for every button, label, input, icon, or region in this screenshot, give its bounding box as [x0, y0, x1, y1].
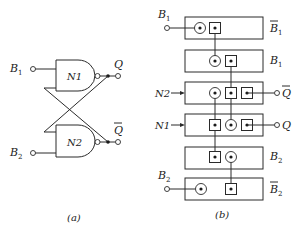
row-label-n2: N2	[154, 88, 170, 99]
wire-cross-qbar-to-n1	[44, 88, 108, 142]
contact-dot-icon	[213, 155, 216, 158]
output-terminal-q-icon	[275, 123, 280, 128]
caption-a: (a)	[67, 212, 81, 223]
inversion-bubble-n1-icon	[95, 74, 100, 79]
contact-dot-icon	[229, 123, 232, 126]
caption-b: (b)	[215, 209, 229, 220]
gate-label-n1: N1	[66, 71, 82, 82]
contact-dot-icon	[213, 26, 216, 29]
row-b2	[185, 147, 263, 169]
arrow-head-n1-icon	[180, 123, 185, 127]
input-label-b2: B2	[157, 169, 171, 184]
row-b1	[185, 50, 263, 72]
row-label-b1: B1	[269, 54, 283, 69]
row-label-n1: N1	[154, 120, 170, 131]
input-label-b2: B2	[9, 146, 23, 161]
output-terminal-qbar-icon	[275, 91, 280, 96]
wire-cross-q-to-n2	[44, 76, 108, 132]
input-label-b1: B1	[9, 62, 23, 77]
contact-dot-icon	[229, 187, 232, 190]
input-label-b1: B1	[157, 8, 171, 23]
contact-dot-icon	[213, 59, 216, 62]
junction-dot-qbar-icon	[106, 140, 110, 144]
input-terminal-b2-icon	[31, 151, 36, 156]
figure-a: B1 N1 Q N2 Q B2 (a)	[9, 58, 123, 223]
gate-label-n2: N2	[66, 137, 82, 148]
output-label-qbar: Q	[114, 124, 123, 137]
contact-dot-icon	[213, 123, 216, 126]
output-label-qbar: Q	[282, 87, 291, 100]
contact-dot-icon	[213, 91, 216, 94]
contact-dot-icon	[199, 187, 202, 190]
contact-dot-icon	[229, 155, 232, 158]
output-label-q: Q	[282, 119, 291, 132]
contact-dot-icon	[198, 26, 201, 29]
output-label-q: Q	[114, 58, 123, 71]
contact-dot-icon	[229, 59, 232, 62]
figure-b: B1 B1 B1 N2 Q N1	[154, 8, 291, 220]
output-terminal-qbar-icon	[116, 140, 121, 145]
row-label-b2: B2	[269, 150, 283, 165]
contact-dot-icon	[229, 91, 232, 94]
input-terminal-b1-icon	[165, 26, 170, 31]
arrow-head-n2-icon	[180, 91, 185, 95]
output-terminal-q-icon	[116, 74, 121, 79]
row-label-b1bar: B1	[269, 22, 283, 37]
input-terminal-b2-icon	[165, 187, 170, 192]
latch-diagram: B1 N1 Q N2 Q B2 (a)	[0, 0, 302, 239]
row-label-b2bar: B2	[269, 183, 283, 198]
inversion-bubble-n2-icon	[95, 140, 100, 145]
input-terminal-b1-icon	[31, 67, 36, 72]
